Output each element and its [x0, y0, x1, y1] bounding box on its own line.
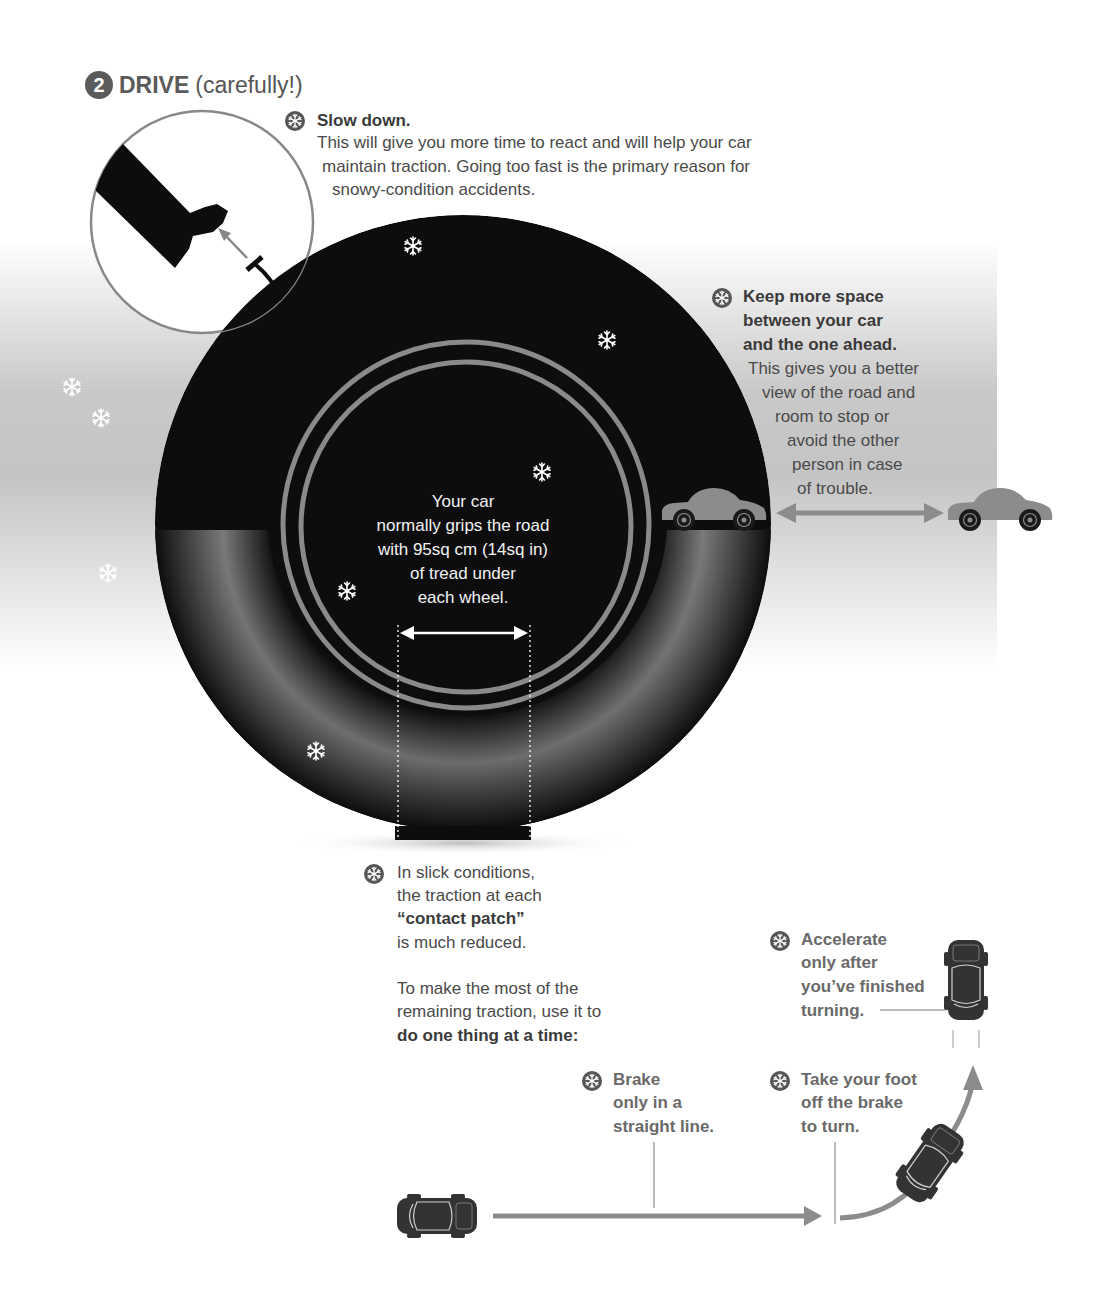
tip-line: off the brake	[801, 1091, 903, 1115]
keep-space-line: avoid the other	[787, 429, 899, 453]
tip-line: you’ve finished	[801, 975, 925, 999]
keep-space-line: person in case	[792, 453, 903, 477]
slow-down-line: This will give you more time to react an…	[317, 131, 752, 155]
tip-line: turning.	[801, 999, 864, 1023]
contact-patch-term: “contact patch”	[397, 907, 525, 931]
section-title: 2 DRIVE (carefully!)	[85, 70, 303, 100]
keep-space-heading: Keep more space	[743, 285, 884, 309]
keep-space-heading: and the one ahead.	[743, 333, 897, 357]
tire-caption-line: each wheel.	[363, 586, 563, 610]
tip-line: to turn.	[801, 1115, 860, 1139]
snowflake-icon	[712, 288, 732, 308]
snowflake-icon	[364, 864, 384, 884]
tip-line: Brake	[613, 1068, 660, 1092]
page-title: DRIVE	[119, 72, 189, 99]
tire-caption-line: normally grips the road	[343, 514, 583, 538]
tip-line: straight line.	[613, 1115, 714, 1139]
winter-driving-diagram	[0, 0, 1106, 1299]
tip-line: Accelerate	[801, 928, 887, 952]
slow-down-heading: Slow down.	[317, 109, 411, 133]
advice-emphasis: do one thing at a time:	[397, 1024, 578, 1048]
keep-space-line: of trouble.	[797, 477, 873, 501]
advice-line: remaining traction, use it to	[397, 1000, 601, 1024]
keep-space-heading: between your car	[743, 309, 883, 333]
tip-line: only after	[801, 951, 878, 975]
keep-space-line: room to stop or	[775, 405, 889, 429]
slow-down-line: snowy-condition accidents.	[332, 178, 535, 202]
snowflake-icon	[770, 931, 790, 951]
step-badge: 2	[85, 71, 113, 99]
contact-patch-line: the traction at each	[397, 884, 542, 908]
tire-caption-line: with 95sq cm (14sq in)	[343, 538, 583, 562]
keep-space-line: view of the road and	[762, 381, 915, 405]
car-top-icon	[397, 1194, 477, 1238]
keep-space-line: This gives you a better	[748, 357, 919, 381]
car-top-vertical	[944, 940, 988, 1048]
snowflake-icon	[285, 111, 305, 131]
tire-caption-line: of tread under	[363, 562, 563, 586]
straight-path-arrow	[493, 1206, 822, 1226]
tire-caption-line: Your car	[363, 490, 563, 514]
snowflake-icon	[770, 1071, 790, 1091]
tip-line: Take your foot	[801, 1068, 917, 1092]
contact-patch-line: In slick conditions,	[397, 861, 535, 885]
slow-down-line: maintain traction. Going too fast is the…	[322, 155, 750, 179]
snowflake-icon	[582, 1071, 602, 1091]
tip-line: only in a	[613, 1091, 682, 1115]
advice-line: To make the most of the	[397, 977, 578, 1001]
page-subtitle: (carefully!)	[195, 72, 302, 99]
contact-patch-line: is much reduced.	[397, 931, 526, 955]
